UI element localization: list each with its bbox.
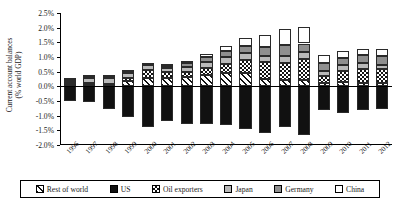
bar-segment bbox=[239, 86, 251, 129]
bar-segment bbox=[318, 63, 330, 70]
darkgray-swatch bbox=[274, 185, 282, 193]
bar-segment bbox=[220, 64, 232, 73]
y-tick-label: 0.0% bbox=[38, 82, 54, 91]
lightgray-swatch bbox=[224, 185, 232, 193]
bar-column[interactable] bbox=[279, 13, 291, 145]
bar-segment bbox=[298, 27, 310, 43]
bar-segment bbox=[181, 77, 193, 87]
bar-segment bbox=[220, 86, 232, 125]
bar-segment bbox=[220, 46, 232, 51]
bar-column[interactable] bbox=[239, 13, 251, 145]
zero-baseline bbox=[60, 86, 392, 87]
bar-segment bbox=[142, 86, 154, 126]
bar-segment bbox=[259, 86, 271, 133]
bar-column[interactable] bbox=[103, 13, 115, 145]
bar-column[interactable] bbox=[318, 13, 330, 145]
plot-area: 2.5%2.0%1.5%1.0%0.5%0.0%-0.5%-1.0%-1.5%-… bbox=[60, 13, 392, 145]
bar-column[interactable] bbox=[64, 13, 76, 145]
bar-segment bbox=[103, 77, 115, 79]
bar-segment bbox=[181, 72, 193, 76]
bar-segment bbox=[298, 52, 310, 58]
legend-item[interactable]: China bbox=[335, 185, 364, 194]
legend-item[interactable]: US bbox=[110, 185, 131, 194]
bar-segment bbox=[181, 63, 193, 67]
bar-segment bbox=[279, 63, 291, 81]
bar-column[interactable] bbox=[181, 13, 193, 145]
legend-label: China bbox=[346, 185, 364, 194]
y-axis-title-line1: Current account balances bbox=[5, 38, 14, 113]
bar-segment bbox=[318, 86, 330, 109]
bar-segment bbox=[357, 69, 369, 83]
bar-segment bbox=[337, 86, 349, 113]
bar-column[interactable] bbox=[200, 13, 212, 145]
y-tick-label: -1.5% bbox=[36, 126, 54, 135]
bar-segment bbox=[200, 62, 212, 68]
y-tick-label: -1.0% bbox=[36, 111, 54, 120]
bar-segment bbox=[376, 56, 388, 65]
bar-segment bbox=[376, 69, 388, 83]
legend-item[interactable]: Rest of world bbox=[36, 185, 88, 194]
bar-column[interactable] bbox=[337, 13, 349, 145]
bar-segment bbox=[337, 65, 349, 71]
bar-segment bbox=[259, 62, 271, 79]
bar-segment bbox=[298, 59, 310, 80]
bar-segment bbox=[181, 67, 193, 72]
legend-item[interactable]: Japan bbox=[224, 185, 252, 194]
bar-segment bbox=[83, 75, 95, 77]
y-tick-label: 2.5% bbox=[38, 9, 54, 18]
bar-segment bbox=[239, 60, 251, 73]
bar-segment bbox=[64, 78, 76, 80]
legend-label: Oil exporters bbox=[163, 185, 203, 194]
bar-segment bbox=[103, 86, 115, 109]
bar-segment bbox=[83, 86, 95, 101]
y-tick-label: 1.5% bbox=[38, 38, 54, 47]
bar-column[interactable] bbox=[376, 13, 388, 145]
bar-column[interactable] bbox=[142, 13, 154, 145]
bar-segment bbox=[200, 54, 212, 57]
bar-segment bbox=[376, 49, 388, 57]
legend-item[interactable]: Oil exporters bbox=[152, 185, 203, 194]
bar-column[interactable] bbox=[298, 13, 310, 145]
bar-segment bbox=[259, 79, 271, 86]
bar-segment bbox=[376, 65, 388, 69]
bar-segment bbox=[357, 55, 369, 63]
bar-segment bbox=[200, 68, 212, 74]
y-tick-mark bbox=[57, 145, 60, 146]
bar-segment bbox=[220, 51, 232, 57]
bar-segment bbox=[161, 78, 173, 87]
bar-segment bbox=[279, 29, 291, 45]
bar-segment bbox=[200, 75, 212, 87]
bar-segment bbox=[357, 49, 369, 55]
bar-segment bbox=[161, 68, 173, 73]
bar-segment bbox=[357, 86, 369, 110]
bar-segment bbox=[181, 61, 193, 63]
bar-segment bbox=[337, 71, 349, 82]
bar-column[interactable] bbox=[259, 13, 271, 145]
legend-label: US bbox=[121, 185, 131, 194]
bar-segment bbox=[200, 86, 212, 124]
bar-segment bbox=[181, 86, 193, 124]
bar-segment bbox=[142, 63, 154, 65]
white-swatch bbox=[335, 185, 343, 193]
bar-segment bbox=[298, 44, 310, 53]
current-account-balances-chart: Current account balances (% world GDP) 2… bbox=[0, 0, 398, 207]
bar-segment bbox=[220, 73, 232, 86]
bar-segment bbox=[259, 47, 271, 56]
bar-segment bbox=[279, 45, 291, 55]
bar-column[interactable] bbox=[161, 13, 173, 145]
y-tick-label: -2.0% bbox=[36, 141, 54, 150]
bar-column[interactable] bbox=[122, 13, 134, 145]
bar-column[interactable] bbox=[357, 13, 369, 145]
y-axis-title-line2: (% world GDP) bbox=[14, 52, 23, 99]
legend-item[interactable]: Germany bbox=[274, 185, 313, 194]
hatch-swatch bbox=[36, 185, 44, 193]
y-tick-label: 2.0% bbox=[38, 23, 54, 32]
bar-column[interactable] bbox=[83, 13, 95, 145]
bar-column[interactable] bbox=[220, 13, 232, 145]
legend-label: Rest of world bbox=[47, 185, 88, 194]
bar-segment bbox=[103, 75, 115, 77]
bar-segment bbox=[259, 56, 271, 62]
bar-segment bbox=[337, 51, 349, 58]
bar-segment bbox=[337, 58, 349, 65]
bar-segment bbox=[161, 86, 173, 121]
